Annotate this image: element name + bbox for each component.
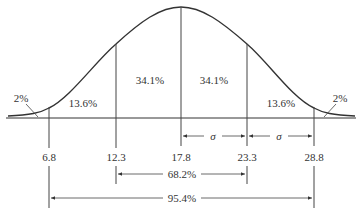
tail-right-label: 2% <box>333 92 348 104</box>
sigma-label-1: σ <box>210 130 215 142</box>
region-label-r3: 34.1% <box>200 74 228 86</box>
tail-left-label: 2% <box>14 92 29 104</box>
tick-label-2: 17.8 <box>171 151 190 163</box>
tick-label-4: 28.8 <box>304 151 323 163</box>
sigma-label-2: σ <box>276 130 281 142</box>
range95-label: 95.4% <box>168 192 196 204</box>
tick-label-1: 12.3 <box>106 151 125 163</box>
tick-label-0: 6.8 <box>42 151 56 163</box>
region-label-r2: 34.1% <box>136 74 164 86</box>
tail-right-leader <box>324 104 336 117</box>
range68-label: 68.2% <box>168 168 196 180</box>
region-label-r1: 13.6% <box>69 97 97 109</box>
normal-curve-diagram <box>0 0 361 216</box>
tick-label-3: 23.3 <box>237 151 256 163</box>
region-label-r4: 13.6% <box>267 97 295 109</box>
